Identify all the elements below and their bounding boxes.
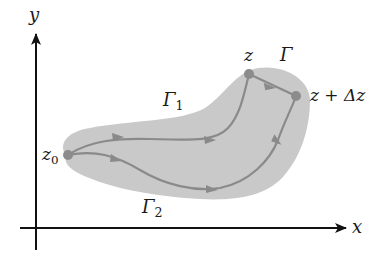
label-delta-z: Δz <box>344 85 365 105</box>
diagram-canvas <box>0 0 387 260</box>
label-z-plus: z + <box>310 85 344 105</box>
y-axis-label: y <box>29 6 39 24</box>
label-z0-subscript: 0 <box>51 153 59 167</box>
label-gamma2: Γ2 <box>142 198 163 220</box>
label-z-plus-dz: z + Δz <box>310 87 365 104</box>
label-z0: z0 <box>42 146 59 167</box>
point-z <box>244 69 254 79</box>
point-z-plus-dz <box>291 91 301 101</box>
x-axis-label: x <box>352 218 362 236</box>
label-gamma1: Γ1 <box>163 91 184 113</box>
label-gamma2-base: Γ <box>142 196 155 217</box>
label-z0-base: z <box>42 144 51 164</box>
label-z: z <box>244 47 253 64</box>
label-gamma1-subscript: 1 <box>176 98 184 113</box>
label-gamma: Γ <box>280 46 293 64</box>
label-gamma2-subscript: 2 <box>155 205 163 220</box>
label-gamma1-base: Γ <box>163 89 176 110</box>
point-z0 <box>63 150 73 160</box>
